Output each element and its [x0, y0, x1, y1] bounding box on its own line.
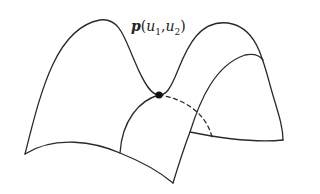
coordinate-curve-hidden	[159, 95, 212, 137]
surface-top-boundary	[25, 20, 283, 154]
point-label: p(u1,u2)	[131, 19, 186, 37]
surface-front-right-edge	[173, 54, 263, 183]
u1-symbol: u	[146, 18, 155, 34]
u2-symbol: u	[165, 18, 174, 34]
surface-point	[155, 91, 162, 98]
surface-bottom-edge	[25, 142, 173, 183]
coordinate-curve-u1	[120, 95, 159, 153]
surface-inner-bottom-edge	[190, 132, 283, 141]
point-symbol: p	[131, 18, 141, 34]
paren-close: )	[180, 18, 185, 34]
